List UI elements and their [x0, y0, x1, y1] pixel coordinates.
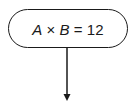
arrowhead-icon	[64, 94, 71, 101]
down-arrow-connector	[0, 0, 137, 104]
